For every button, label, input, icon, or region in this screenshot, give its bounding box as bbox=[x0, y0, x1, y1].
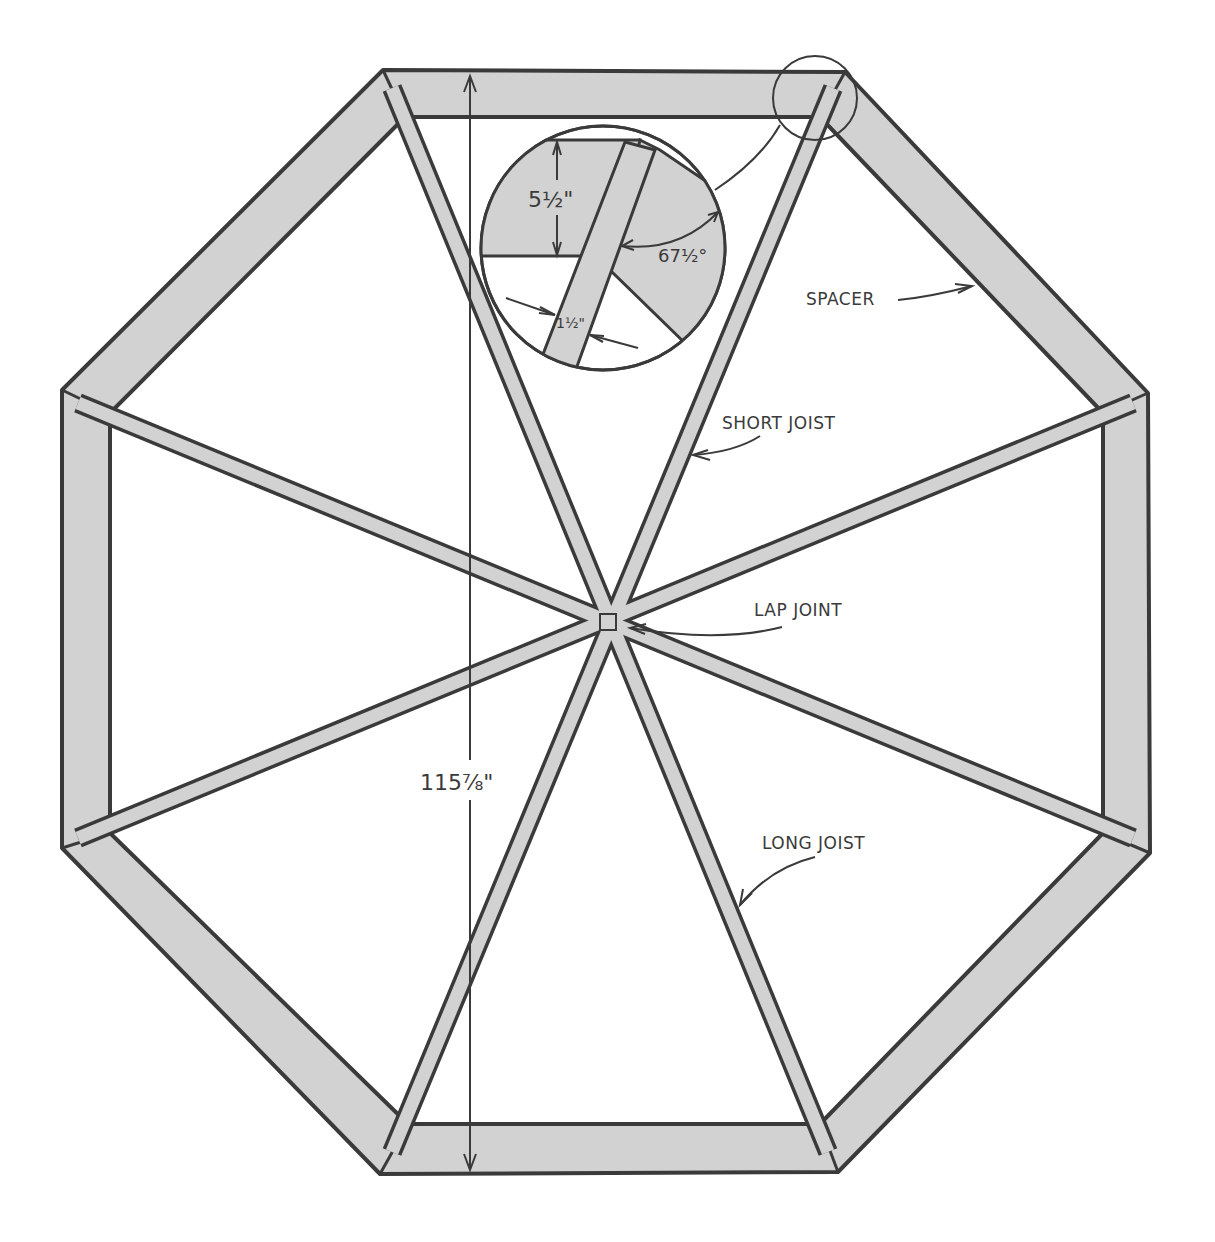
overall-dimension-line bbox=[464, 76, 476, 1170]
overall-width-label: 115⅞" bbox=[420, 770, 493, 795]
short-joist-label: SHORT JOIST bbox=[722, 413, 836, 433]
long-joist-callout: LONG JOIST bbox=[740, 833, 865, 905]
long-joist-label: LONG JOIST bbox=[762, 833, 865, 853]
miter-angle-label: 67½° bbox=[658, 245, 707, 266]
spacer-callout: SPACER bbox=[806, 284, 972, 309]
lap-joint-square bbox=[600, 614, 616, 630]
callout-leader bbox=[715, 125, 780, 190]
board-thickness-label: 1½" bbox=[556, 315, 585, 331]
deck-frame-diagram: 115⅞" 5½" bbox=[0, 0, 1215, 1242]
lap-joint-label: LAP JOINT bbox=[754, 600, 842, 620]
board-depth-label: 5½" bbox=[528, 187, 573, 212]
short-joist-callout: SHORT JOIST bbox=[693, 413, 836, 460]
spacer-label: SPACER bbox=[806, 289, 875, 309]
